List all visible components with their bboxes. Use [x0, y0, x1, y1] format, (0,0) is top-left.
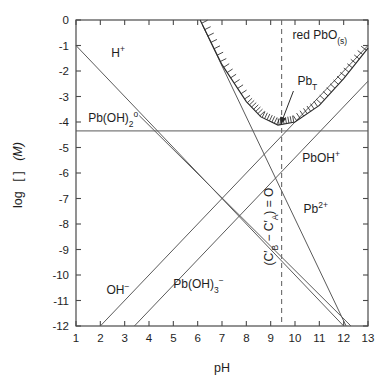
hatch-tick	[267, 114, 270, 120]
series-PbOH3	[134, 81, 368, 326]
hatch-tick	[269, 115, 272, 121]
hatch-tick	[252, 103, 257, 107]
y-tick-label: -11	[53, 295, 69, 307]
chart-svg: 12345678910111213 0-1-2-3-4-5-6-7-8-9-10…	[0, 0, 387, 387]
y-tick-label: -4	[59, 116, 70, 128]
hatch-tick	[224, 64, 229, 68]
hatch-tick	[334, 80, 339, 84]
label-PbOH: PbOH+	[302, 149, 340, 165]
y-axis-title: log [ ] (M)	[11, 142, 25, 208]
hatch-tick	[285, 117, 286, 123]
hatch-tick	[297, 113, 301, 118]
hatch-tick	[323, 91, 328, 95]
hatch-tick	[254, 105, 259, 109]
label-PbT: PbT	[297, 74, 317, 92]
hatch-tick	[241, 90, 246, 94]
hatch-tick	[340, 72, 345, 76]
label-OH: OH−	[106, 281, 129, 297]
y-tick-label: 0	[63, 14, 69, 26]
y-tick-label: -7	[59, 193, 69, 205]
x-tick-label: 11	[313, 332, 325, 344]
hatch-tick	[258, 109, 263, 113]
hatch-tick	[238, 85, 243, 89]
x-tick-label: 3	[121, 332, 127, 344]
hatch-tick	[249, 100, 254, 104]
series-PbOH	[139, 116, 351, 326]
y-axis-title-brackets: [ ]	[11, 171, 25, 181]
x-tick-label: 5	[170, 332, 176, 344]
x-tick-label: 7	[219, 332, 225, 344]
x-axis-title-text: pH	[214, 361, 230, 375]
series-labels: H+OH−Pb(OH)2oPb(OH)3−Pb2+PbOH+PbTred PbO…	[88, 28, 347, 297]
hatch-tick	[265, 113, 268, 119]
hatch-tick	[272, 116, 275, 122]
hatch-tick	[314, 101, 318, 106]
pbt-arrow	[281, 91, 294, 124]
hatch-tick	[290, 116, 291, 122]
hatch-tick	[256, 107, 261, 111]
x-tick-label: 8	[243, 332, 249, 344]
x-tick-label: 2	[97, 332, 103, 344]
y-tick-label: -9	[59, 244, 69, 256]
hatch-tick	[316, 99, 321, 103]
x-tick-label: 1	[73, 332, 79, 344]
hatch-tick	[320, 95, 325, 99]
log-concentration-diagram: 12345678910111213 0-1-2-3-4-5-6-7-8-9-10…	[0, 0, 387, 387]
y-tick-label: -1	[59, 40, 69, 52]
hatch-tick	[227, 69, 232, 73]
x-tick-label: 12	[337, 332, 350, 344]
hatch-tick	[220, 59, 226, 62]
label-H: H+	[111, 44, 125, 60]
label-PbOH3: Pb(OH)3−	[173, 275, 223, 295]
x-tick-label: 10	[289, 332, 302, 344]
y-tick-label: -2	[59, 65, 69, 77]
y-tick-label: -3	[59, 91, 69, 103]
y-axis-title-log: log	[11, 191, 25, 208]
x-tick-label: 6	[194, 332, 200, 344]
hatch-tick	[330, 84, 335, 88]
series-Pb2	[203, 25, 347, 326]
hatch-tick	[211, 39, 217, 42]
hatch-tick	[231, 74, 236, 78]
hatch-tick	[327, 88, 332, 92]
charge-balance-label: (C′B − C′A) = O	[262, 188, 280, 266]
label-Pb2: Pb2+	[304, 200, 328, 216]
hatch-tick	[247, 98, 252, 102]
hatch-tick	[208, 33, 214, 36]
y-axis-title-units: (M)	[11, 142, 25, 161]
x-tick-label: 4	[146, 332, 153, 344]
x-tick-label: 9	[267, 332, 273, 344]
y-axis-title-text: log [ ] (M)	[11, 142, 25, 208]
hatch-tick	[217, 52, 223, 55]
red-pbo-solid: red PbO(s)	[293, 28, 348, 46]
hatch-tick	[337, 76, 342, 80]
y-tick-label: -8	[59, 218, 69, 230]
hatch-tick	[234, 80, 239, 84]
hatch-tick	[274, 117, 277, 123]
y-tick-label: -6	[59, 167, 69, 179]
series-OH	[100, 46, 368, 327]
label-PbOH2: Pb(OH)2o	[88, 109, 138, 129]
x-tick-label: 13	[362, 332, 375, 344]
y-tick-label: -10	[52, 269, 69, 281]
hatch-tick	[245, 95, 250, 99]
y-tick-label: -5	[59, 142, 69, 154]
hatch-tick	[202, 20, 208, 23]
hatch-tick	[288, 117, 289, 123]
hatch-tick	[205, 27, 211, 30]
y-tick-label: -12	[52, 320, 69, 332]
x-axis-title: pH	[214, 361, 230, 375]
hatch-tick	[214, 46, 220, 49]
